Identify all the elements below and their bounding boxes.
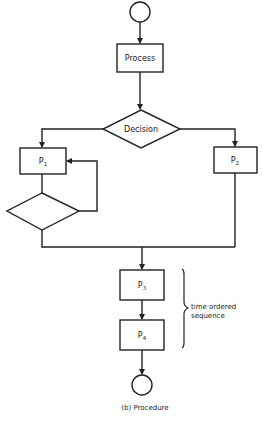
end-terminal xyxy=(132,375,152,395)
edge-loop-back-p1 xyxy=(67,161,97,211)
loop-decision-diamond xyxy=(7,193,79,230)
start-terminal xyxy=(130,2,150,22)
edge-decision-p2 xyxy=(180,129,235,146)
decision-label: Decision xyxy=(124,125,158,134)
annotation-line1: time ordered xyxy=(191,303,236,311)
annotation-line2: sequence xyxy=(191,312,225,320)
figure-caption: (b) Procedure xyxy=(121,404,168,412)
process-label: Process xyxy=(125,54,155,63)
edge-decision-p1 xyxy=(42,129,103,147)
edge-loop-decision-merge xyxy=(42,230,235,247)
sequence-brace xyxy=(182,269,188,348)
flowchart-canvas: Process Decision P1 P2 P3 P4 time ordere… xyxy=(0,0,263,421)
